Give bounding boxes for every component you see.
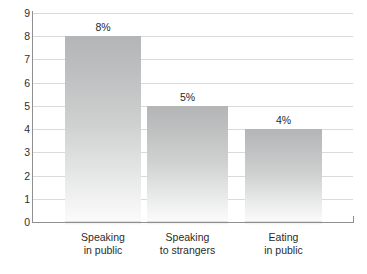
y-tick-label-5: 5: [8, 101, 30, 111]
y-tick-label-7: 7: [8, 54, 30, 64]
x-axis-line: [32, 222, 354, 223]
y-tick-label-2: 2: [8, 171, 30, 181]
y-axis-line: [32, 11, 33, 223]
x-axis-end-tick: [353, 216, 354, 223]
category-label-line-2: to strangers: [133, 244, 242, 257]
category-label: Speakingto strangers: [133, 231, 242, 257]
category-label: Eatingin public: [231, 231, 336, 257]
y-tick-label-0: 0: [8, 217, 30, 227]
y-tick-label-3: 3: [8, 147, 30, 157]
y-tick-label-4: 4: [8, 124, 30, 134]
gridline-9: [32, 13, 353, 14]
y-axis-tick-labels: 9876543210: [0, 0, 30, 274]
bar: [245, 129, 322, 222]
bar-value-label: 4%: [245, 115, 322, 126]
bar: [65, 36, 141, 222]
category-label-line-1: Speaking: [166, 231, 210, 243]
bar-chart: 9876543210 8%5%4% Speakingin publicSpeak…: [0, 0, 367, 274]
y-tick-label-8: 8: [8, 31, 30, 41]
y-tick-label-9: 9: [8, 8, 30, 18]
bar: [147, 106, 228, 222]
y-tick-label-1: 1: [8, 194, 30, 204]
bar-value-label: 8%: [65, 22, 141, 33]
y-tick-label-6: 6: [8, 78, 30, 88]
bar-value-label: 5%: [147, 92, 228, 103]
category-label-line-1: Eating: [269, 231, 299, 243]
category-label-line-1: Speaking: [81, 231, 125, 243]
category-label-line-2: in public: [231, 244, 336, 257]
